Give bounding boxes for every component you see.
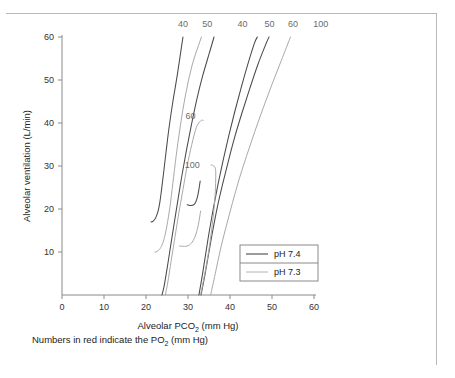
po2-top-label: 100 [313,19,328,29]
x-axis-title: Alveolar PCO2 (mm Hg) [137,320,238,333]
figure-frame: 0102030405060102030405060 40504050601006… [0,0,455,378]
po2-top-label: 50 [202,19,212,29]
curve-7-3-po2-0 [180,211,201,246]
po2-inner-label: 100 [185,160,200,170]
x-tick-label: 0 [59,302,64,312]
x-tick-label: 10 [99,302,109,312]
legend-label-1: pH 7.3 [274,267,301,277]
po2-top-label: 40 [178,19,188,29]
footnote-suffix: (mm Hg) [168,334,208,345]
po2-inner-label: 60 [186,111,196,121]
y-tick-label: 40 [44,118,54,128]
curve-7-4-po2-0 [187,181,200,206]
curve-7-3-po2-100 [201,165,216,295]
po2-label-group: 405040506010060100 [178,19,328,170]
y-tick-label: 10 [44,247,54,257]
legend-label-0: pH 7.4 [274,249,301,259]
x-axis-title-prefix: Alveolar PCO [137,320,195,331]
x-tick-label: 50 [267,302,277,312]
curve-7-3-po2-60 [165,120,203,295]
y-tick-label: 20 [44,204,54,214]
po2-top-label: 40 [238,19,248,29]
curve-7-4-po2-40 [151,37,183,222]
po2-top-label: 60 [288,19,298,29]
chart-svg: 0102030405060102030405060 40504050601006… [0,0,455,378]
x-tick-label: 30 [183,302,193,312]
x-tick-label: 40 [225,302,235,312]
x-tick-label: 20 [141,302,151,312]
chart-plot-area: 0102030405060102030405060 40504050601006… [0,0,455,378]
po2-top-label: 50 [264,19,274,29]
y-tick-label: 50 [44,75,54,85]
chart-legend[interactable]: pH 7.4pH 7.3 [240,245,318,281]
y-tick-label: 30 [44,161,54,171]
axis-titles-group: Alveolar PCO2 (mm Hg)Alveolar ventilatio… [21,110,239,332]
y-tick-label: 60 [44,32,54,42]
x-tick-label: 60 [309,302,319,312]
x-axis-title-suffix: (mm Hg) [199,320,239,331]
figure-footnote: Numbers in red indicate the PO2 (mm Hg) [32,334,208,347]
footnote-prefix: Numbers in red indicate the PO [32,334,165,345]
y-axis-title: Alveolar ventilation (L/min) [21,110,32,222]
